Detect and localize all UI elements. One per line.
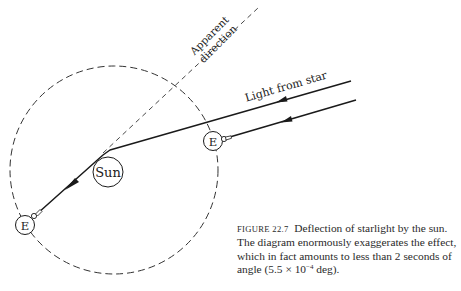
earth-right-label: E [209,135,217,149]
arrow-upper-ray-icon [276,96,288,103]
telescope-left-icon [31,210,42,219]
sun: Sun [93,157,123,187]
telescope-right-icon [221,136,231,142]
earth-left-label: E [21,219,29,233]
figure-number: FIGURE 22.7 [237,224,289,234]
sun-label: Sun [95,165,121,180]
deflected-light-ray [38,81,351,213]
caption-text-end: deg). [314,263,340,275]
caption-exponent: −4 [306,263,313,271]
arrow-lower-ray-icon [281,116,293,123]
earth-right: E [204,132,232,151]
figure-caption: FIGURE 22.7 Deflection of starlight by t… [237,222,459,277]
arrow-deflected-ray-icon [65,178,79,190]
